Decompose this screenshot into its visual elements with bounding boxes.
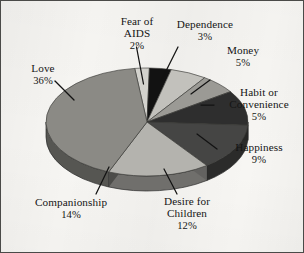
slice-label-percent: 3% [167, 31, 243, 42]
pie-slices [46, 68, 248, 176]
slice-label-line1: Habit or [240, 86, 278, 98]
slice-label-companionship: Companionship 14% [19, 197, 123, 220]
slice-label-happiness: Happiness 9% [223, 142, 295, 165]
slice-label-percent: 5% [217, 111, 301, 122]
slice-label-habit-or-convenience: Habit or Convenience 5% [217, 87, 301, 122]
slice-label-percent: 14% [19, 209, 123, 220]
slice-label-line1: Companionship [35, 196, 107, 208]
slice-label-money: Money 5% [217, 45, 269, 68]
slice-label-desire-for-children: Desire for Children 12% [147, 196, 227, 231]
slice-label-line1: Money [227, 44, 259, 56]
slice-label-percent: 2% [104, 40, 170, 51]
slice-label-love: Love 36% [19, 63, 67, 86]
slice-label-line1: Happiness [235, 141, 283, 153]
pie-chart-figure: Fear of AIDS 2% Dependence 3% Money 5% H… [0, 0, 304, 253]
slice-label-line1: Desire for [164, 195, 210, 207]
slice-label-line1: Fear of [121, 15, 154, 27]
slice-label-line2: AIDS [104, 28, 170, 40]
slice-label-fear-of-aids: Fear of AIDS 2% [104, 16, 170, 51]
slice-label-line2: Children [147, 208, 227, 220]
slice-label-dependence: Dependence 3% [167, 19, 243, 42]
slice-label-percent: 9% [223, 154, 295, 165]
slice-label-line2: Convenience [217, 99, 301, 111]
slice-label-percent: 12% [147, 220, 227, 231]
slice-label-line1: Dependence [177, 18, 233, 30]
slice-label-percent: 36% [19, 75, 67, 86]
slice-label-percent: 5% [217, 57, 269, 68]
slice-label-line1: Love [31, 62, 54, 74]
